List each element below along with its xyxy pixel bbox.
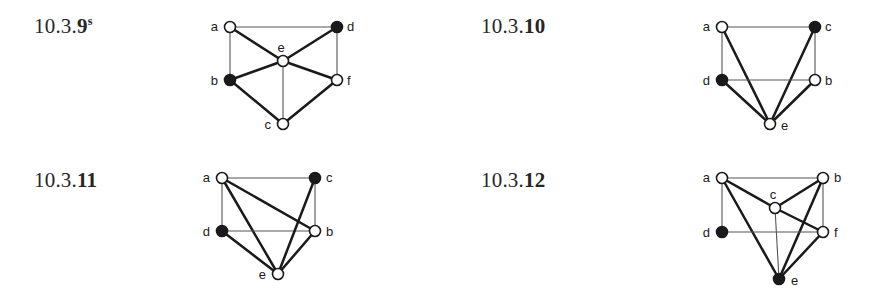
exercise-block: 10.3.11 acdbe xyxy=(0,154,447,307)
graph-canvas: acdbe xyxy=(190,152,400,305)
graph-edge xyxy=(779,232,823,279)
graph-vertex-d xyxy=(717,227,728,238)
graph-edge xyxy=(770,27,815,124)
graph-edge xyxy=(230,61,283,80)
graph-canvas: abcdfe xyxy=(695,154,894,307)
graph-edge xyxy=(775,208,823,232)
exercise-label: 10.3.12 xyxy=(481,168,545,193)
exercise-block: 10.3.12 abcdfe xyxy=(447,154,894,307)
graph-svg: abcdfe xyxy=(695,154,894,307)
graph-vertex-e xyxy=(774,274,785,285)
vertex-label-b: b xyxy=(211,73,218,88)
vertex-label-c: c xyxy=(265,117,272,132)
vertex-label-e: e xyxy=(781,118,788,133)
exercise-label-prefix: 10.3. xyxy=(34,168,77,192)
graph-vertex-b xyxy=(810,75,821,86)
graph-vertex-e xyxy=(273,269,284,280)
vertex-label-d: d xyxy=(703,73,710,88)
exercise-label-prefix: 10.3. xyxy=(481,14,524,38)
graph-vertex-f xyxy=(332,75,343,86)
vertex-label-c: c xyxy=(825,19,832,34)
exercise-label: 10.3.9s xyxy=(34,14,93,39)
vertex-label-a: a xyxy=(703,19,711,34)
exercise-label-prefix: 10.3. xyxy=(481,168,524,192)
graph-vertex-a xyxy=(717,173,728,184)
graph-vertex-d xyxy=(332,22,343,33)
graph-edge xyxy=(222,231,278,274)
graph-canvas: abcdef xyxy=(190,0,400,153)
graph-vertex-d xyxy=(217,226,228,237)
exercise-label-prefix: 10.3. xyxy=(34,14,77,38)
graph-vertex-c xyxy=(310,173,321,184)
exercise-label-superscript: s xyxy=(88,14,93,28)
graph-svg: acdbe xyxy=(695,0,894,153)
vertex-label-d: d xyxy=(203,224,210,239)
vertex-label-b: b xyxy=(326,224,333,239)
vertex-label-e: e xyxy=(259,267,266,282)
graph-vertex-e xyxy=(278,56,289,67)
exercise-block: 10.3.9s abcdef xyxy=(0,0,447,153)
graph-vertex-a xyxy=(217,173,228,184)
vertex-label-f: f xyxy=(347,73,351,88)
graph-vertex-b xyxy=(818,173,829,184)
vertex-label-e: e xyxy=(277,40,284,55)
graph-edge xyxy=(222,178,278,274)
exercise-label-number: 9 xyxy=(77,14,88,38)
vertex-label-a: a xyxy=(203,170,211,185)
graph-edge xyxy=(283,61,337,80)
graph-vertex-e xyxy=(765,119,776,130)
graph-canvas: acdbe xyxy=(695,0,894,153)
vertex-label-d: d xyxy=(703,225,710,240)
graph-edge xyxy=(222,178,315,231)
graph-edge xyxy=(278,178,315,274)
graph-edge xyxy=(775,208,779,279)
graph-vertex-d xyxy=(717,75,728,86)
vertex-label-a: a xyxy=(703,170,711,185)
graph-edge xyxy=(230,27,283,61)
graph-edge xyxy=(283,80,337,124)
graph-edge xyxy=(722,80,770,124)
graph-svg: acdbe xyxy=(190,152,400,305)
vertex-label-c: c xyxy=(770,187,777,202)
exercise-label-number: 12 xyxy=(524,168,545,192)
graph-edge xyxy=(230,80,283,124)
graph-vertex-c xyxy=(770,203,781,214)
exercise-block: 10.3.10 acdbe xyxy=(447,0,894,153)
exercise-label: 10.3.11 xyxy=(34,168,97,193)
exercise-label-number: 11 xyxy=(77,168,97,192)
graph-edge xyxy=(278,231,315,274)
graph-edge xyxy=(283,27,337,61)
exercise-figure-page: 10.3.9s abcdef 10.3.10 acdbe 10.3.11 acd… xyxy=(0,0,894,307)
graph-vertex-a xyxy=(717,22,728,33)
graph-vertex-b xyxy=(225,75,236,86)
graph-edge xyxy=(722,27,770,124)
graph-vertex-c xyxy=(810,22,821,33)
graph-vertex-c xyxy=(278,119,289,130)
vertex-label-c: c xyxy=(326,170,333,185)
graph-svg: abcdef xyxy=(190,0,400,153)
vertex-label-a: a xyxy=(211,19,219,34)
vertex-label-f: f xyxy=(834,225,838,240)
exercise-label-number: 10 xyxy=(524,14,545,38)
graph-vertex-a xyxy=(225,22,236,33)
vertex-label-b: b xyxy=(834,170,841,185)
graph-edge xyxy=(770,80,815,124)
vertex-label-d: d xyxy=(347,19,354,34)
graph-vertex-b xyxy=(310,226,321,237)
vertex-label-b: b xyxy=(825,73,832,88)
exercise-label: 10.3.10 xyxy=(481,14,545,39)
vertex-label-e: e xyxy=(791,273,798,288)
graph-vertex-f xyxy=(818,227,829,238)
